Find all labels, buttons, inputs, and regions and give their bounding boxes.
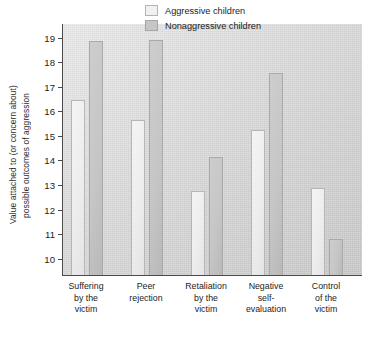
plot-area: 10111213141516171819 — [62, 24, 362, 276]
bar-nonaggressive — [329, 239, 343, 275]
bar-nonaggressive — [89, 41, 103, 275]
x-axis-label: Negativeself-evaluation — [236, 281, 296, 316]
bar-aggressive — [131, 120, 145, 275]
y-axis-title-line-1: Value attached to (or concern about) — [6, 30, 19, 280]
bar-aggressive — [71, 100, 85, 275]
x-axis-label-line: Control — [296, 281, 356, 293]
y-axis-tick — [58, 62, 63, 63]
bar-nonaggressive — [209, 157, 223, 275]
legend-item-nonaggressive-children: Nonaggressive children — [145, 19, 261, 32]
x-axis-label-line: Suffering — [56, 281, 116, 293]
y-axis-tick-label: 11 — [45, 229, 55, 240]
y-axis-tick — [58, 160, 63, 161]
y-axis-tick — [58, 185, 63, 186]
y-axis-tick-label: 14 — [44, 155, 55, 166]
legend-item-aggressive-children: Aggressive children — [145, 4, 261, 17]
y-axis-title-line-2: possible outcomes of aggression — [19, 30, 32, 280]
x-axis-label-line: victim — [176, 304, 236, 316]
y-axis-tick-label: 15 — [44, 130, 55, 141]
y-axis-tick — [58, 136, 63, 137]
y-axis-tick-label: 12 — [44, 204, 55, 215]
x-axis-label-line: Retaliation — [176, 281, 236, 293]
y-axis-tick — [58, 234, 63, 235]
bar-nonaggressive — [149, 40, 163, 275]
x-axis-label-line: victim — [296, 304, 356, 316]
y-axis-tick — [58, 38, 63, 39]
y-axis-tick — [58, 111, 63, 112]
y-axis-tick-label: 18 — [44, 57, 55, 68]
y-axis-tick-label: 13 — [44, 180, 55, 191]
legend-swatch-icon-aggressive — [145, 5, 158, 16]
bar-aggressive — [191, 191, 205, 275]
x-axis-label-line: of the — [296, 293, 356, 305]
x-axis-category-labels: Sufferingby thevictimPeerrejectionRetali… — [62, 281, 362, 337]
y-axis-tick-label: 10 — [44, 253, 55, 264]
x-axis-label: Retaliationby thevictim — [176, 281, 236, 316]
x-axis-label-line: by the — [176, 293, 236, 305]
y-axis-tick-label: 19 — [44, 32, 55, 43]
bar-nonaggressive — [269, 73, 283, 275]
x-axis-label: Peerrejection — [116, 281, 176, 304]
y-axis-tick — [58, 87, 63, 88]
x-axis-label-line: victim — [56, 304, 116, 316]
y-axis-tick-label: 16 — [44, 106, 55, 117]
bar-aggressive — [311, 188, 325, 275]
x-axis-label: Sufferingby thevictim — [56, 281, 116, 316]
x-axis-label-line: self- — [236, 293, 296, 305]
y-axis-tick-label: 17 — [44, 81, 55, 92]
x-axis-label-line: by the — [56, 293, 116, 305]
y-axis-tick — [58, 259, 63, 260]
x-axis-label-line: evaluation — [236, 304, 296, 316]
chart-legend: Aggressive children Nonaggressive childr… — [145, 4, 261, 34]
x-axis-label-line: Peer — [116, 281, 176, 293]
bar-chart-figure: Value attached to (or concern about) pos… — [0, 0, 370, 340]
legend-label-nonaggressive: Nonaggressive children — [165, 21, 261, 31]
legend-swatch-icon-nonaggressive — [145, 20, 158, 31]
legend-label-aggressive: Aggressive children — [165, 6, 245, 16]
x-axis-label-line: rejection — [116, 293, 176, 305]
y-axis-tick — [58, 210, 63, 211]
bar-aggressive — [251, 130, 265, 275]
x-axis-label: Controlof thevictim — [296, 281, 356, 316]
x-axis-label-line: Negative — [236, 281, 296, 293]
y-axis-title: Value attached to (or concern about) pos… — [6, 30, 34, 280]
